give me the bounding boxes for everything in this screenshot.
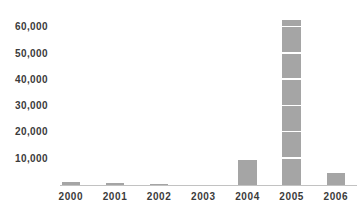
bar-segment-divider: [282, 105, 301, 107]
bar-2002: [150, 184, 169, 185]
y-axis-tick-label: 30,000: [0, 100, 48, 112]
plot-area: 10,00020,00030,00040,00050,00060,0002000…: [0, 0, 364, 219]
x-axis-tick-label-2001: 2001: [92, 191, 138, 203]
bar-segment-divider: [282, 26, 301, 28]
x-axis-tick-label-2000: 2000: [48, 191, 94, 203]
y-axis-tick-label: 50,000: [0, 48, 48, 60]
bar-segment-divider: [282, 131, 301, 133]
bar-segment-divider: [282, 52, 301, 54]
bar-2005: [282, 20, 301, 185]
y-axis-tick-label: 40,000: [0, 74, 48, 86]
x-axis-tick-label-2003: 2003: [180, 191, 226, 203]
x-axis-tick-label-2006: 2006: [313, 191, 359, 203]
x-axis-tick-label-2002: 2002: [136, 191, 182, 203]
bar-segment-divider: [282, 78, 301, 80]
y-axis-tick-label: 20,000: [0, 126, 48, 138]
bar-2000: [62, 182, 81, 185]
bar-2001: [106, 183, 125, 185]
bar-chart: 10,00020,00030,00040,00050,00060,0002000…: [0, 0, 364, 219]
bar-2006: [327, 173, 346, 185]
x-axis-tick-label-2005: 2005: [269, 191, 315, 203]
y-axis-tick-label: 60,000: [0, 21, 48, 33]
y-axis-tick-label: 10,000: [0, 153, 48, 165]
x-axis-tick-label-2004: 2004: [224, 191, 270, 203]
x-axis-line: [60, 185, 357, 187]
bar-segment-divider: [282, 157, 301, 159]
bar-2004: [238, 160, 257, 185]
